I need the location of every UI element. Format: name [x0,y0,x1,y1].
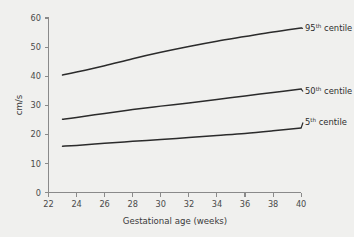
y-tick-label-40: 40 [31,71,41,81]
x-tick-label-38: 38 [268,199,278,209]
y-axis-ticks: 0 10 20 30 40 50 60 [31,13,49,198]
x-tick-label-36: 36 [240,199,250,209]
leader-line-50th-centile [301,89,303,92]
x-tick-label-28: 28 [127,199,137,209]
series-label-95th-centile: 95th centile [305,23,352,33]
y-tick-label-0: 0 [36,188,41,198]
x-axis-title: Gestational age (weeks) [123,216,227,226]
x-tick-label-26: 26 [99,199,109,209]
series-leader-lines [301,28,303,128]
y-tick-label-30: 30 [31,100,41,110]
x-axis-ticks: 22 24 26 28 30 32 34 36 38 40 [43,193,306,210]
x-tick-label-34: 34 [212,199,222,209]
series-label-50th-centile: 50th centile [305,86,352,96]
y-tick-label-20: 20 [31,129,41,139]
series-line-50th-centile [63,89,302,119]
x-tick-label-24: 24 [71,199,81,209]
y-tick-label-50: 50 [31,42,41,52]
series-line-95th-centile [63,28,302,75]
leader-line-95th-centile [301,28,303,29]
data-series-group [63,28,302,146]
x-tick-label-32: 32 [184,199,194,209]
leader-line-5th-centile [301,123,303,128]
series-labels-group: 95th centile 50th centile 5th centile [305,23,352,127]
series-line-5th-centile [63,128,302,146]
centile-line-chart: 0 10 20 30 40 50 60 22 24 26 28 [0,0,354,237]
x-tick-label-30: 30 [156,199,166,209]
series-label-5th-centile: 5th centile [305,117,347,127]
x-tick-label-40: 40 [296,199,306,209]
x-tick-label-22: 22 [43,199,53,209]
y-tick-label-60: 60 [31,13,41,23]
chart-container: 0 10 20 30 40 50 60 22 24 26 28 [0,0,354,237]
y-tick-label-10: 10 [31,159,41,169]
y-axis-title: cm/s [14,94,24,115]
